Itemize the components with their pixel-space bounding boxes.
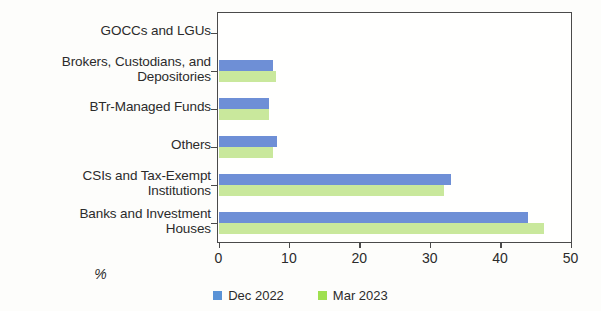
legend-item-dec-2022: Dec 2022 bbox=[213, 288, 284, 303]
bar-mar-2023 bbox=[219, 71, 277, 82]
x-axis-tick bbox=[571, 243, 573, 248]
legend-swatch-icon-mar-2023 bbox=[318, 291, 327, 300]
bar-mar-2023 bbox=[219, 185, 444, 196]
bar-dec-2022 bbox=[219, 136, 277, 147]
y-axis-tick bbox=[211, 185, 217, 187]
x-axis-tick-label: 40 bbox=[480, 250, 520, 266]
bar-group bbox=[219, 128, 571, 166]
bar-dec-2022 bbox=[219, 174, 451, 185]
y-axis-tick bbox=[211, 33, 217, 35]
bar-group bbox=[219, 90, 571, 128]
legend-label-mar-2023: Mar 2023 bbox=[333, 288, 388, 303]
bar-dec-2022 bbox=[219, 212, 529, 223]
bar-mar-2023 bbox=[219, 223, 545, 234]
bar-chart: GOCCs and LGUsBrokers, Custodians, and D… bbox=[0, 0, 601, 311]
x-axis-tick-label: 30 bbox=[410, 250, 450, 266]
legend-label-dec-2022: Dec 2022 bbox=[228, 288, 284, 303]
y-axis-tick bbox=[211, 71, 217, 73]
x-axis-tick-label: 0 bbox=[199, 250, 239, 266]
chart-legend: Dec 2022 Mar 2023 bbox=[0, 288, 601, 303]
bars-area bbox=[219, 14, 571, 242]
bar-mar-2023 bbox=[219, 109, 270, 120]
y-axis-tick bbox=[211, 147, 217, 149]
x-axis-tick bbox=[359, 243, 361, 248]
x-axis-tick bbox=[430, 243, 432, 248]
bar-mar-2023 bbox=[219, 147, 274, 158]
x-axis-title: % bbox=[0, 266, 601, 282]
bar-group bbox=[219, 52, 571, 90]
y-axis-tick bbox=[211, 223, 217, 225]
bar-dec-2022 bbox=[219, 98, 270, 109]
category-label: GOCCs and LGUs bbox=[0, 23, 211, 39]
legend-item-mar-2023: Mar 2023 bbox=[318, 288, 388, 303]
bar-group bbox=[219, 14, 571, 52]
x-axis-tick bbox=[289, 243, 291, 248]
category-label: Banks and Investment Houses bbox=[0, 206, 211, 237]
category-label: Brokers, Custodians, and Depositories bbox=[0, 54, 211, 85]
x-axis-tick bbox=[219, 243, 221, 248]
category-label: Others bbox=[0, 137, 211, 153]
category-label: BTr-Managed Funds bbox=[0, 99, 211, 115]
bar-dec-2022 bbox=[219, 60, 274, 71]
x-axis-tick bbox=[500, 243, 502, 248]
x-axis-title-text: % bbox=[94, 266, 106, 282]
legend-swatch-icon-dec-2022 bbox=[213, 291, 222, 300]
bar-group bbox=[219, 204, 571, 242]
category-label: CSIs and Tax-Exempt Institutions bbox=[0, 168, 211, 199]
x-axis-tick-label: 50 bbox=[551, 250, 591, 266]
y-axis-tick bbox=[211, 109, 217, 111]
category-axis-labels: GOCCs and LGUsBrokers, Custodians, and D… bbox=[0, 12, 211, 243]
x-axis-tick-label: 20 bbox=[339, 250, 379, 266]
x-axis-tick-label: 10 bbox=[269, 250, 309, 266]
bar-group bbox=[219, 166, 571, 204]
